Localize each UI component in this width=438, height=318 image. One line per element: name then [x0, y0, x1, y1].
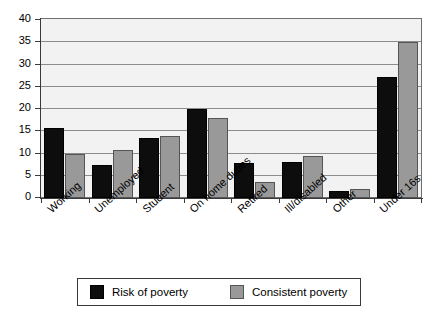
bar-chart: 4035302520151050 WorkingUnemployedStuden… [0, 0, 438, 318]
y-tick-label: 40 [0, 13, 31, 24]
legend-entry-consistent-poverty: Consistent poverty [230, 285, 347, 299]
x-tick-mark [374, 199, 375, 203]
bar [44, 128, 64, 198]
legend-label-risk-of-poverty: Risk of poverty [112, 285, 188, 299]
y-tick-mark [35, 153, 40, 154]
legend-swatch-icon-consistent-poverty [230, 285, 244, 299]
legend-swatch-icon-risk-of-poverty [90, 285, 104, 299]
legend-entry-risk-of-poverty: Risk of poverty [90, 285, 188, 299]
y-tick-mark [35, 175, 40, 176]
y-tick-mark [35, 130, 40, 131]
y-tick-label: 5 [0, 169, 31, 180]
y-tick-label: 0 [0, 191, 31, 202]
x-tick-mark [41, 199, 42, 203]
x-tick-mark [421, 199, 422, 203]
x-tick-mark [326, 199, 327, 203]
x-tick-mark [279, 199, 280, 203]
bar [187, 109, 207, 198]
y-tick-label: 25 [0, 80, 31, 91]
x-tick-mark [231, 199, 232, 203]
y-tick-mark [35, 19, 40, 20]
y-axis [40, 18, 41, 199]
y-tick-label: 10 [0, 147, 31, 158]
legend: Risk of poverty Consistent poverty [77, 278, 361, 306]
x-tick-mark [136, 199, 137, 203]
bar [139, 138, 159, 198]
legend-label-consistent-poverty: Consistent poverty [252, 285, 347, 299]
y-tick-mark [35, 41, 40, 42]
y-tick-mark [35, 86, 40, 87]
y-tick-mark [35, 108, 40, 109]
x-tick-mark [89, 199, 90, 203]
y-tick-mark [35, 197, 40, 198]
y-tick-label: 35 [0, 35, 31, 46]
y-tick-label: 15 [0, 124, 31, 135]
x-tick-mark [184, 199, 185, 203]
y-tick-label: 30 [0, 58, 31, 69]
y-tick-mark [35, 64, 40, 65]
y-tick-label: 20 [0, 102, 31, 113]
bar [377, 77, 397, 198]
